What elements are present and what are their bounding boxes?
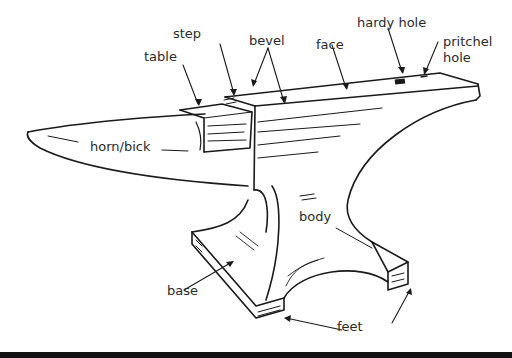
label-base: base — [167, 284, 198, 298]
label-body: body — [299, 210, 331, 224]
label-face: face — [316, 38, 344, 52]
label-feet: feet — [337, 320, 363, 334]
label-pritchel-hole-line2: hole — [443, 51, 471, 65]
label-bevel: bevel — [249, 34, 285, 48]
label-hardy-hole: hardy hole — [357, 16, 426, 30]
label-pritchel-hole-line1: pritchel — [443, 35, 492, 49]
anvil-illustration — [0, 0, 512, 358]
bottom-border — [0, 352, 512, 358]
label-step: step — [173, 27, 201, 41]
label-horn: horn/bick — [90, 140, 150, 154]
anvil-diagram: step table bevel face hardy hole pritche… — [0, 0, 512, 358]
label-table: table — [144, 50, 177, 64]
